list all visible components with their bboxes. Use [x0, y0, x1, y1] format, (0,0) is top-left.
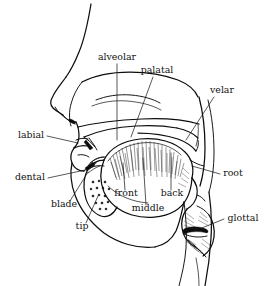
label-root: root — [223, 167, 243, 178]
label-back: back — [161, 187, 184, 198]
label-tip: tip — [76, 220, 89, 231]
label-front: front — [114, 187, 138, 198]
vocal-tract-diagram: alveolar palatal velar labial dental bla… — [0, 0, 267, 286]
canvas-background — [0, 0, 267, 286]
sagittal-vocal-tract-svg: alveolar palatal velar labial dental bla… — [0, 0, 267, 286]
label-glottal: glottal — [228, 212, 259, 223]
label-middle: middle — [132, 202, 165, 213]
label-alveolar: alveolar — [98, 51, 137, 62]
label-palatal: palatal — [141, 64, 174, 75]
label-dental: dental — [15, 171, 45, 182]
label-velar: velar — [209, 84, 234, 95]
label-labial: labial — [18, 129, 44, 140]
label-blade: blade — [51, 198, 78, 209]
